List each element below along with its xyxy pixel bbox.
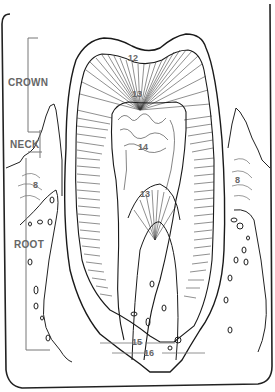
right-gum-outline: [228, 108, 270, 168]
label-crown: CROWN: [8, 78, 48, 88]
furcation-dome: [128, 184, 180, 220]
label-15: 15: [132, 338, 142, 347]
label-16: 16: [144, 349, 154, 358]
label-12: 12: [128, 54, 138, 63]
label-neck: NECK: [10, 140, 40, 150]
gum-hatching: [18, 159, 252, 200]
label-root: ROOT: [14, 240, 44, 250]
label-8-left: 8: [33, 181, 38, 190]
label-14: 14: [138, 143, 148, 152]
dentin-tubules: [80, 50, 210, 110]
label-13-lower: 13: [140, 190, 150, 199]
enamel-outline: [65, 34, 225, 372]
dentin-side-hatching: [77, 110, 214, 298]
label-8-right: 8: [235, 176, 240, 185]
label-13-upper: 13: [132, 90, 142, 99]
right-bone-outline: [234, 210, 266, 352]
